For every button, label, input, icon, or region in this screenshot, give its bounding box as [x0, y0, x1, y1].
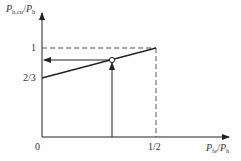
operating-point-marker: [109, 57, 114, 62]
y-axis-label: Ph,cu/Ph: [6, 4, 35, 17]
x-axis-label: Pfe/Ph: [206, 143, 229, 156]
main-line: [42, 48, 156, 78]
y-tick-2-3: 2/3: [23, 73, 36, 83]
x-tick-1-2: 1/2: [148, 142, 161, 152]
y-tick-1: 1: [31, 43, 36, 53]
diagram-canvas: [0, 0, 241, 161]
x-tick-0: 0: [35, 142, 40, 152]
